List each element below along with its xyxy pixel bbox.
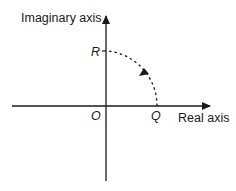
real-axis-label: Real axis bbox=[178, 111, 229, 125]
rotation-arc bbox=[108, 51, 157, 106]
point-r-label: R bbox=[91, 45, 100, 59]
imaginary-axis-label: Imaginary axis bbox=[21, 11, 102, 25]
complex-plane-diagram: Imaginary axis Real axis O Q R bbox=[0, 0, 236, 191]
point-q-label: Q bbox=[151, 109, 161, 123]
origin-label: O bbox=[91, 109, 101, 123]
